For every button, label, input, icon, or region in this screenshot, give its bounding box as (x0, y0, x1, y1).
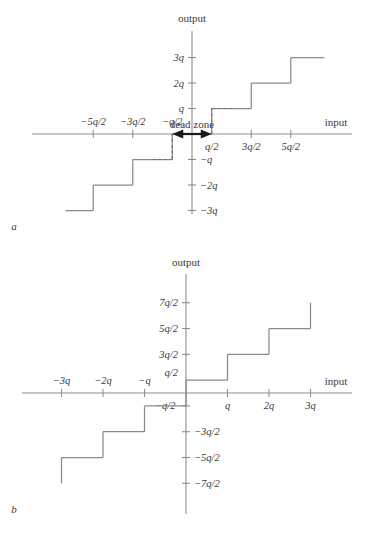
dead-zone-arrow-head-left (172, 129, 183, 138)
y-tick-label: 3q (173, 52, 185, 63)
dead-zone-label: dead zone (170, 118, 214, 130)
y-tick-label: 2q (174, 78, 185, 89)
x-tick-label: −q (138, 375, 150, 386)
y-tick-label: −5q/2 (194, 452, 221, 463)
x-tick-label: 3q/2 (241, 141, 261, 152)
y-tick-label: −q (200, 154, 212, 165)
panel-letter-a: a (11, 220, 17, 232)
x-tick-label: 3q (304, 400, 316, 411)
y-tick-label: −3q (200, 205, 218, 216)
y-tick-label: q/2 (165, 367, 179, 378)
y-axis-label: output (172, 256, 200, 268)
panel-letter-b: b (11, 503, 17, 515)
x-tick-label: q/2 (205, 141, 219, 152)
dead-zone-arrow-head-right (201, 129, 212, 138)
x-tick-label: q (225, 400, 230, 411)
y-axis-label: output (178, 12, 206, 24)
y-tick-label: q (179, 103, 184, 114)
x-tick-label: −2q (94, 375, 112, 386)
x-tick-label: 2q (264, 400, 275, 411)
x-axis-label: input (325, 375, 348, 387)
y-tick-label: −3q/2 (194, 426, 221, 437)
x-axis-label: input (325, 116, 348, 128)
x-tick-label: −3q/2 (120, 116, 147, 127)
x-tick-label: −5q/2 (80, 116, 107, 127)
y-tick-label: −7q/2 (194, 478, 221, 489)
chart-a: −5q/2−3q/2−q/2q/23q/25q/23q2qq−q−2q−3qou… (0, 0, 369, 250)
x-tick-label: −3q (53, 375, 71, 386)
y-tick-label: −2q (200, 180, 218, 191)
figure-panel-a: −5q/2−3q/2−q/2q/23q/25q/23q2qq−q−2q−3qou… (0, 0, 369, 250)
y-tick-label: 3q/2 (158, 349, 178, 360)
y-tick-label: 5q/2 (159, 323, 178, 334)
figure-panel-b: −3q−2q−q−q/2q2q3q7q/25q/23q/2q/2−3q/2−5q… (0, 248, 369, 533)
y-tick-label: 7q/2 (159, 297, 178, 308)
chart-b: −3q−2q−q−q/2q2q3q7q/25q/23q/2q/2−3q/2−5q… (0, 248, 369, 533)
x-tick-label: 5q/2 (281, 141, 300, 152)
